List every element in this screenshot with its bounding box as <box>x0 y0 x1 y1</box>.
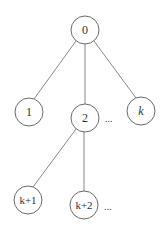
edge-0-1 <box>34 41 76 99</box>
tree-diagram: 0 1 2 k k+1 k+2 ... ... <box>0 0 164 233</box>
tree-node-k-plus-1: k+1 <box>14 186 42 214</box>
edge-2-k1 <box>33 129 76 187</box>
ellipsis-children: ... <box>104 201 112 212</box>
edge-0-k <box>94 41 136 98</box>
tree-node-1: 1 <box>15 98 43 126</box>
tree-node-k-plus-2: k+2 <box>70 191 98 219</box>
node-label: k+2 <box>75 199 92 211</box>
tree-node-0: 0 <box>71 16 99 44</box>
ellipsis-siblings: ... <box>105 113 113 124</box>
node-label: 0 <box>82 23 88 37</box>
node-label: k <box>138 104 144 118</box>
node-label: 2 <box>82 111 88 125</box>
node-label: 1 <box>26 105 32 119</box>
tree-node-k: k <box>127 97 155 125</box>
tree-node-2: 2 <box>71 104 99 132</box>
node-label: k+1 <box>19 194 36 206</box>
